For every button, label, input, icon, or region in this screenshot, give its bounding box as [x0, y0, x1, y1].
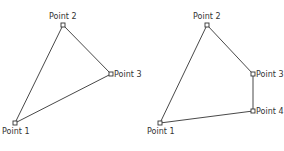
point-label: Point 3 — [256, 70, 284, 79]
diagram-canvas: Point 1 Point 2 Point 3 Point 1 Point 2 … — [0, 0, 284, 151]
point-label: Point 1 — [2, 127, 30, 136]
point-marker-icon — [61, 23, 65, 27]
point-marker-icon — [205, 23, 209, 27]
point-label: Point 2 — [193, 12, 221, 21]
quadrilateral-diagram: Point 1 Point 2 Point 3 Point 4 — [147, 12, 284, 136]
point-marker-icon — [158, 121, 162, 125]
point-label: Point 2 — [49, 12, 77, 21]
point-label: Point 4 — [256, 107, 284, 116]
triangle-diagram: Point 1 Point 2 Point 3 — [2, 12, 142, 136]
point-marker-icon — [13, 121, 17, 125]
point-label: Point 1 — [147, 127, 175, 136]
point-marker-icon — [109, 72, 113, 76]
point-marker-icon — [251, 109, 255, 113]
point-label: Point 3 — [114, 70, 142, 79]
quadrilateral-outline — [160, 25, 253, 123]
triangle-outline — [15, 25, 111, 123]
point-marker-icon — [251, 72, 255, 76]
